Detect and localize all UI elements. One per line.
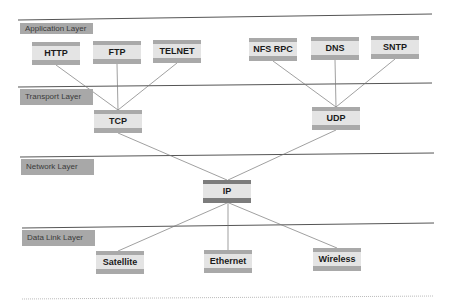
transport-layer-label: Transport Layer: [20, 89, 93, 105]
edge-tcp-ip: [118, 133, 227, 180]
transport-layer-separator: [18, 83, 432, 87]
node-satellite: Satellite: [96, 251, 144, 274]
node-http: HTTP: [32, 42, 80, 65]
edge-telnet-tcp: [118, 63, 177, 110]
node-ethernet: Ethernet: [204, 250, 252, 273]
datalink-layer-label: Data Link Layer: [22, 230, 95, 246]
node-nfs-rpc: NFS RPC: [249, 38, 297, 61]
node-dns: DNS: [311, 37, 359, 60]
node-sntp: SNTP: [371, 36, 419, 59]
node-wireless: Wireless: [313, 248, 361, 271]
network-layer-label: Network Layer: [21, 159, 94, 175]
application-layer-separator: [18, 14, 432, 20]
node-ftp: FTP: [93, 41, 141, 64]
node-tcp: TCP: [94, 110, 142, 133]
application-layer-label: Application Layer: [20, 23, 93, 34]
network-layer-separator: [20, 153, 434, 157]
node-telnet: TELNET: [153, 40, 201, 63]
node-udp: UDP: [312, 107, 360, 130]
edge-ftp-tcp: [117, 64, 118, 110]
node-ip: IP: [203, 180, 251, 203]
bottom-separator: [22, 296, 434, 299]
edge-dns-udp: [335, 60, 336, 107]
